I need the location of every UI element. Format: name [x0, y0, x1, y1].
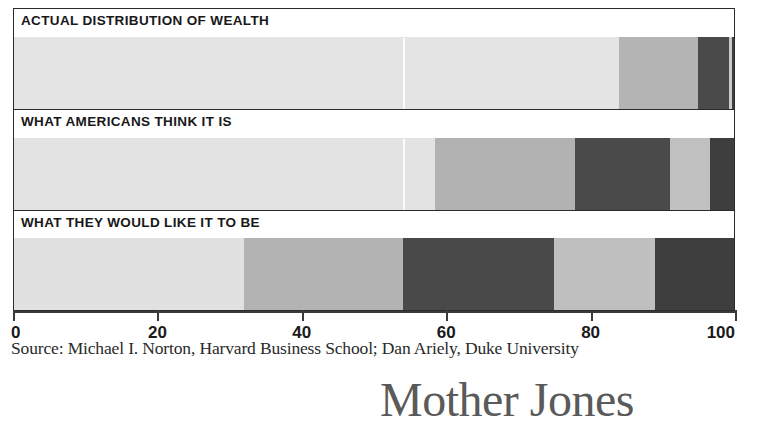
panel-title: WHAT AMERICANS THINK IT IS [21, 113, 232, 130]
bar-segment [698, 37, 729, 109]
chart-panel-americans-think: WHAT AMERICANS THINK IT IS [13, 109, 735, 210]
bar-segment [14, 138, 435, 210]
axis-tick-label: 100 [707, 323, 735, 343]
bar-segment [435, 138, 575, 210]
axis-tick [735, 310, 737, 321]
wealth-distribution-figure: ACTUAL DISTRIBUTION OF WEALTH WHAT AMERI… [0, 0, 759, 422]
bar-segment [619, 37, 698, 109]
chart-panel-actual-distribution: ACTUAL DISTRIBUTION OF WEALTH [13, 8, 735, 109]
panel-title: WHAT THEY WOULD LIKE IT TO BE [21, 214, 260, 231]
axis-tick-label: 80 [581, 323, 600, 343]
panel-title: ACTUAL DISTRIBUTION OF WEALTH [21, 12, 269, 29]
chart-panel-would-like: WHAT THEY WOULD LIKE IT TO BE [13, 210, 735, 311]
chart-plot-area: ACTUAL DISTRIBUTION OF WEALTH WHAT AMERI… [13, 8, 735, 311]
axis-tick [13, 310, 15, 321]
axis-tick [591, 310, 593, 321]
stacked-bar [14, 37, 734, 109]
bar-segment [403, 238, 554, 310]
axis-tick [446, 310, 448, 321]
axis-line [13, 311, 735, 313]
bar-segment [655, 238, 734, 310]
bar-segment [14, 238, 244, 310]
stacked-bar [14, 238, 734, 310]
bar-segment [575, 138, 670, 210]
axis-tick [302, 310, 304, 321]
bar-segment [244, 238, 402, 310]
mother-jones-logo: Mother Jones [380, 372, 634, 422]
bar-segment [554, 238, 655, 310]
bar-segment [14, 37, 619, 109]
bar-segment [670, 138, 710, 210]
axis-tick [157, 310, 159, 321]
source-note: Source: Michael I. Norton, Harvard Busin… [11, 338, 579, 359]
bar-segment [732, 37, 734, 109]
bar-segment [710, 138, 734, 210]
stacked-bar [14, 138, 734, 210]
